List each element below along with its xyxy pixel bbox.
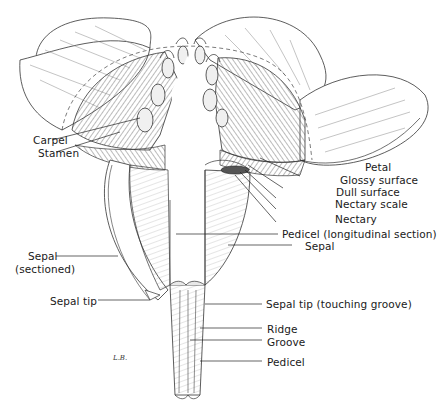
flower-diagram: Carpel Stamen Sepal (sectioned) Sepal ti… <box>0 0 442 404</box>
left-sepal <box>104 160 170 300</box>
label-pedicel-longitudinal: Pedicel (longitudinal section) <box>282 228 437 240</box>
label-ridge: Ridge <box>267 323 298 335</box>
label-pedicel: Pedicel <box>267 356 305 368</box>
label-petal: Petal <box>365 161 391 173</box>
label-dull-surface: Dull surface <box>336 186 400 198</box>
label-glossy-surface: Glossy surface <box>340 174 418 186</box>
label-nectary-scale: Nectary scale <box>335 198 408 210</box>
label-carpel: Carpel <box>33 134 68 146</box>
right-sepal <box>205 160 250 285</box>
label-sepal: Sepal <box>305 240 335 252</box>
label-sepal-tip: Sepal tip <box>50 295 97 307</box>
label-stamen: Stamen <box>38 147 79 159</box>
label-nectary: Nectary <box>335 213 377 225</box>
label-groove: Groove <box>267 336 305 348</box>
label-sepal-tip-touching-groove: Sepal tip (touching groove) <box>266 298 412 310</box>
label-sepal-sectioned-line2: (sectioned) <box>15 263 75 275</box>
label-sepal-sectioned-line1: Sepal <box>28 250 58 262</box>
nectary <box>221 166 249 174</box>
receptacle-center <box>170 55 205 285</box>
right-petal-lower <box>300 75 428 165</box>
artist-signature: L.B. <box>113 354 127 362</box>
